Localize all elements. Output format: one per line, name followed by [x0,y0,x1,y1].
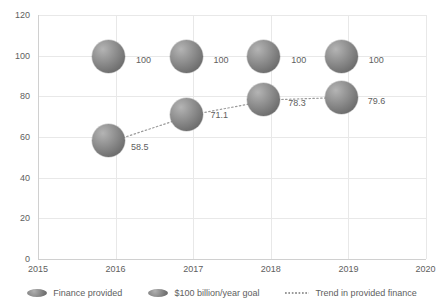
chart-legend: Finance provided $100 billion/year goal … [0,284,444,302]
data-label-provided-2018: 78.3 [288,99,306,108]
bubble-goal-2017[interactable] [170,40,203,73]
y-tick-label-60: 60 [0,133,30,142]
y-tick-label-120: 120 [0,11,30,20]
legend-item-finance-provided[interactable]: Finance provided [27,288,122,298]
y-tick-label-80: 80 [0,92,30,101]
data-label-goal-2017: 100 [214,56,229,65]
legend-item-trend[interactable]: Trend in provided finance [285,288,416,298]
gridline-y-40 [38,178,426,179]
bubble-goal-2016[interactable] [92,40,125,73]
x-tick-label-2016: 2016 [91,264,141,274]
bubble-chart: 120 100 80 60 40 20 0 2015 2016 2017 201… [0,0,444,306]
bubble-goal-2018[interactable] [247,40,280,73]
x-tick-label-2019: 2019 [323,264,373,274]
bubble-provided-2017[interactable] [170,98,203,131]
legend-label-trend: Trend in provided finance [315,288,416,298]
x-tick-label-2015: 2015 [13,264,63,274]
x-tick-label-2017: 2017 [168,264,218,274]
legend-item-goal[interactable]: $100 billion/year goal [148,288,259,298]
bubble-icon [148,289,168,297]
legend-label-goal: $100 billion/year goal [174,288,259,298]
x-tick-label-2018: 2018 [246,264,296,274]
bubble-goal-2019[interactable] [325,40,358,73]
x-tick-label-2020: 2020 [401,264,444,274]
dotted-line-icon [285,292,309,294]
x-axis-line [38,259,426,260]
data-label-provided-2016: 58.5 [131,143,149,152]
y-tick-label-20: 20 [0,214,30,223]
data-label-provided-2019: 79.6 [368,97,386,106]
y-axis-line [38,15,39,260]
bubble-icon [27,289,47,297]
y-tick-label-0: 0 [0,255,30,264]
data-label-provided-2017: 71.1 [211,111,229,120]
data-label-goal-2016: 100 [136,56,151,65]
bubble-provided-2019[interactable] [325,81,358,114]
y-tick-label-40: 40 [0,174,30,183]
gridline-y-120 [38,15,426,16]
y-axis-ticks: 120 100 80 60 40 20 0 [0,0,34,306]
bubble-provided-2016[interactable] [92,124,125,157]
legend-label-finance-provided: Finance provided [53,288,122,298]
gridline-x-2020 [426,15,427,259]
data-label-goal-2018: 100 [291,56,306,65]
gridline-y-20 [38,218,426,219]
y-tick-label-100: 100 [0,52,30,61]
data-label-goal-2019: 100 [369,56,384,65]
